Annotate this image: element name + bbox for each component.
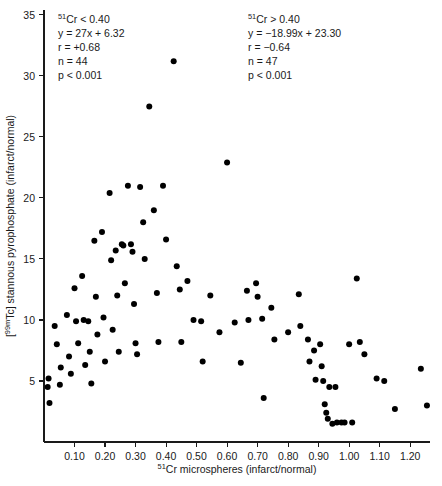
y-tick-label: 5 [29,375,35,387]
data-point [207,293,213,299]
y-tick-label: 15 [23,253,35,265]
data-point [232,319,238,325]
data-point [120,243,126,249]
data-point [354,275,360,281]
data-point [200,358,206,364]
data-point [75,340,81,346]
data-point [87,349,93,355]
data-point [259,316,265,322]
data-point [317,341,323,347]
data-point [268,305,274,311]
data-point [346,341,352,347]
data-point [137,184,143,190]
data-point [313,377,319,383]
annotation-low-condition: 51Cr < 0.40 [58,12,125,26]
data-points-group [45,58,430,426]
data-point [178,339,184,345]
annotation-low-p: p < 0.001 [58,68,125,82]
annotation-high-condition-text: Cr > 0.40 [256,13,299,25]
data-point [332,384,338,390]
data-point [140,219,146,225]
x-tick-label: 0.40 [156,450,177,462]
y-axis-ticks: 5101520253035 [23,9,44,387]
x-tick-label: 0.10 [64,450,85,462]
data-point [102,358,108,364]
data-point [184,278,190,284]
data-point [133,340,139,346]
data-point [155,339,161,345]
data-point [245,317,251,323]
data-point [253,280,259,286]
data-point [128,241,134,247]
data-point [146,103,152,109]
isotope-superscript: 51 [58,12,66,21]
data-point [349,419,355,425]
x-tick-label: 0.70 [247,450,268,462]
data-point [151,207,157,213]
data-point [73,318,79,324]
data-point [82,362,88,368]
data-point [311,347,317,353]
y-tick-label: 20 [23,192,35,204]
data-point [93,294,99,300]
data-point [271,336,277,342]
x-axis-ticks: 0.100.200.300.400.500.600.700.800.901.00… [64,442,420,462]
data-point [177,286,183,292]
x-axis-title: 51Cr microspheres (infarct/normal) [158,462,317,475]
data-point [191,317,197,323]
data-point [418,366,424,372]
annotation-low-equation: y = 27x + 6.32 [58,26,125,40]
data-point [131,301,137,307]
annotation-low-n: n = 44 [58,54,125,68]
x-tick-label: 0.20 [95,450,116,462]
annotation-high-flow: 51Cr > 0.40 y = −18.99x + 23.30 r = −0.6… [248,12,341,82]
x-tick-label: 1.10 [369,450,390,462]
data-point [381,378,387,384]
scatter-plot-figure: 5101520253035 0.100.200.300.400.500.600.… [0,0,442,486]
x-tick-label: 0.80 [278,450,299,462]
data-point [46,376,52,382]
data-point [160,183,166,189]
data-point [99,229,105,235]
data-point [113,247,119,253]
data-point [129,249,135,255]
data-point [285,329,291,335]
x-tick-label: 1.00 [339,450,360,462]
x-tick-label: 0.60 [217,450,238,462]
x-tick-label: 0.90 [308,450,329,462]
y-axis-title: [99mTc] stannous pyrophosphate (infarct/… [3,115,16,337]
annotation-low-condition-text: Cr < 0.40 [66,13,109,25]
data-point [424,402,430,408]
x-tick-label: 0.50 [186,450,207,462]
data-point [238,360,244,366]
annotation-high-condition: 51Cr > 0.40 [248,12,341,26]
data-point [306,358,312,364]
data-point [255,294,261,300]
data-point [79,273,85,279]
data-point [101,315,107,321]
data-point [224,160,230,166]
data-point [154,290,160,296]
data-point [134,351,140,357]
data-point [163,236,169,242]
data-point [46,400,52,406]
x-tick-label: 1.20 [400,450,421,462]
data-point [66,354,72,360]
data-point [54,341,60,347]
data-point [174,263,180,269]
data-point [361,351,367,357]
data-point [305,336,311,342]
data-point [68,371,74,377]
data-point [392,406,398,412]
data-point [116,349,122,355]
data-point [325,416,331,422]
data-point [108,257,114,263]
data-point [85,318,91,324]
data-point [357,339,363,345]
data-point [326,384,332,390]
data-point [297,323,303,329]
data-point [171,58,177,64]
data-point [374,376,380,382]
data-point [122,280,128,286]
data-point [198,318,204,324]
